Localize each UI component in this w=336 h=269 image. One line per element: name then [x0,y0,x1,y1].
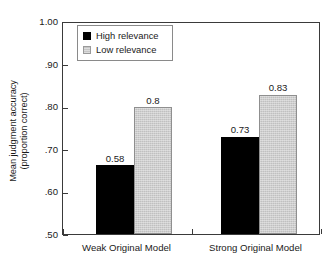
bar-weak-low-relevance [134,107,172,234]
y-axis-title-line-1: Mean judgment accuracy [8,36,19,226]
y-axis-tick-label: .90 [22,60,58,70]
legend-swatch-low-relevance [83,46,91,54]
x-axis-tick-mark [63,229,64,234]
x-axis-tick-mark [192,229,193,234]
y-axis-tick-mark [63,150,68,151]
y-axis-tick-label: .60 [22,187,58,197]
bar-value-strong-high-relevance: 0.73 [221,125,259,135]
y-axis-tick-mark [63,235,68,236]
y-axis-tick-mark [63,108,68,109]
y-axis-tick-label: .70 [22,145,58,155]
bar-value-weak-high-relevance: 0.58 [96,154,134,164]
bar-chart-figure: Mean judgment accuracy (proportion corre… [0,0,336,269]
bar-weak-high-relevance [96,165,134,234]
legend-swatch-high-relevance [83,32,91,40]
bar-strong-low-relevance [259,95,297,234]
y-axis-tick-label: .80 [22,102,58,112]
legend-label-high-relevance: High relevance [96,31,159,41]
chart-legend: High relevance Low relevance [77,25,173,61]
y-axis-tick-label: 1.00 [22,17,58,27]
bar-value-strong-low-relevance: 0.83 [259,83,297,93]
bar-strong-high-relevance [221,137,259,234]
x-axis-tick-mark [321,229,322,234]
bar-value-weak-low-relevance: 0.8 [134,96,172,106]
legend-label-low-relevance: Low relevance [96,45,156,55]
y-axis-tick-mark [63,193,68,194]
y-axis-tick-mark [63,65,68,66]
plot-area: 0.58 0.8 0.73 0.83 High relevance Low re… [62,22,320,235]
y-axis-tick-label: .50 [22,230,58,240]
legend-item-low-relevance: Low relevance [83,43,167,57]
y-axis-tick-mark [63,22,68,23]
y-axis-tick-labels: 1.00.90.80.70.60.50 [20,0,58,269]
x-axis-category-strong-original-model: Strong Original Model [191,242,320,253]
x-axis-category-weak-original-model: Weak Original Model [62,242,191,253]
legend-item-high-relevance: High relevance [83,29,167,43]
